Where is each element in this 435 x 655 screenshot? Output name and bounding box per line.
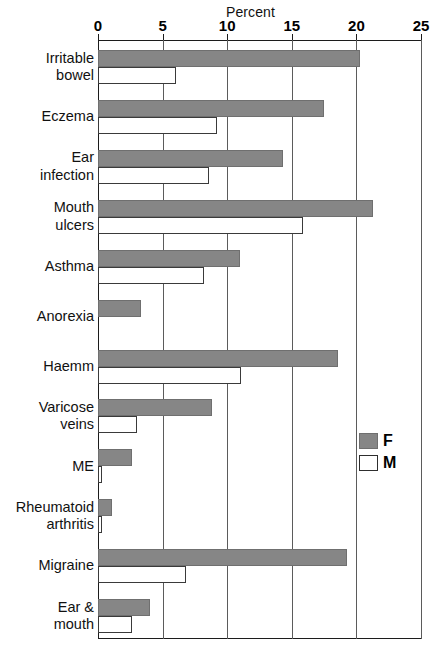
bar-male	[98, 416, 137, 433]
bar-group	[98, 290, 421, 340]
bar-male	[98, 167, 209, 184]
plot-area	[98, 40, 421, 639]
bar-male	[98, 267, 204, 284]
bar-male	[98, 566, 186, 583]
category-label-line: Rheumatoid	[2, 499, 94, 517]
category-label: ME	[2, 458, 94, 476]
category-label-line: Ear	[2, 149, 94, 167]
bar-female	[98, 200, 373, 217]
bar-male	[98, 516, 102, 533]
bar-male	[98, 466, 102, 483]
bar-female	[98, 150, 283, 167]
bar-group	[98, 140, 421, 190]
x-tick-label-25: 25	[413, 17, 430, 34]
bar-group	[98, 190, 421, 240]
category-label-line: Migraine	[2, 557, 94, 575]
bar-male	[98, 117, 217, 134]
category-label-line: Eczema	[2, 108, 94, 126]
x-tick-label-0: 0	[94, 17, 102, 34]
category-label-line: Irritable	[2, 50, 94, 68]
bar-female	[98, 250, 240, 267]
category-label-line: Anorexia	[2, 308, 94, 326]
bar-female	[98, 300, 141, 317]
category-label: Rheumatoidarthritis	[2, 499, 94, 534]
legend-item-male: M	[359, 452, 419, 474]
category-label-line: Ear &	[2, 599, 94, 617]
category-label: Asthma	[2, 258, 94, 276]
bar-group	[98, 40, 421, 90]
bar-female	[98, 599, 150, 616]
tick-mark-25	[421, 34, 422, 40]
legend-item-female: F	[359, 430, 419, 452]
bar-female	[98, 499, 112, 516]
category-label: Earinfection	[2, 149, 94, 184]
category-label-line: Asthma	[2, 258, 94, 276]
category-label-line: Mouth	[2, 199, 94, 217]
category-label-line: Varicose	[2, 399, 94, 417]
category-label-line: infection	[2, 167, 94, 185]
bar-female	[98, 50, 360, 67]
category-label: Migraine	[2, 557, 94, 575]
category-label-line: ulcers	[2, 217, 94, 235]
category-label-line: ME	[2, 458, 94, 476]
bar-group	[98, 240, 421, 290]
bar-female	[98, 350, 338, 367]
category-label: Mouthulcers	[2, 199, 94, 234]
bar-group	[98, 589, 421, 639]
category-label-line: Haemm	[2, 358, 94, 376]
category-label: Haemm	[2, 358, 94, 376]
bar-female	[98, 399, 212, 416]
x-tick-label-20: 20	[348, 17, 365, 34]
category-label: Varicoseveins	[2, 399, 94, 434]
legend-swatch-female-icon	[359, 433, 378, 449]
legend-label-female: F	[383, 433, 393, 449]
bar-group	[98, 489, 421, 539]
bar-group	[98, 340, 421, 390]
bar-male	[98, 67, 176, 84]
x-tick-label-10: 10	[219, 17, 236, 34]
gridline-25	[421, 40, 422, 639]
category-label: Irritablebowel	[2, 50, 94, 85]
bar-male	[98, 217, 303, 234]
bar-male	[98, 367, 241, 384]
category-label-line: bowel	[2, 67, 94, 85]
bar-female	[98, 100, 324, 117]
bar-chart: Percent 0510152025 IrritablebowelEczemaE…	[0, 0, 435, 655]
bar-female	[98, 549, 347, 566]
bar-male	[98, 616, 132, 633]
category-label-line: arthritis	[2, 516, 94, 534]
x-tick-label-15: 15	[283, 17, 300, 34]
category-label: Ear &mouth	[2, 599, 94, 634]
x-tick-label-5: 5	[158, 17, 166, 34]
legend-swatch-male-icon	[359, 455, 378, 471]
chart-legend: F M	[359, 430, 419, 474]
category-label: Anorexia	[2, 308, 94, 326]
bar-group	[98, 90, 421, 140]
category-label: Eczema	[2, 108, 94, 126]
category-label-line: mouth	[2, 616, 94, 634]
legend-label-male: M	[383, 455, 396, 471]
category-label-line: veins	[2, 416, 94, 434]
bar-group	[98, 539, 421, 589]
bar-female	[98, 449, 132, 466]
